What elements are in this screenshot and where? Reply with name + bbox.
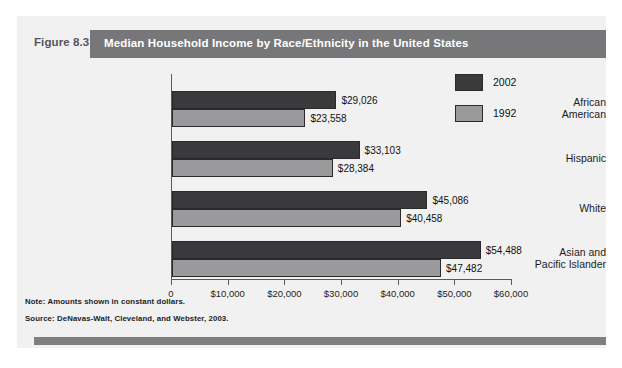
bar-2002-2	[172, 191, 427, 209]
x-axis-tick	[454, 280, 455, 285]
x-axis-tick	[228, 280, 229, 285]
bar-value-label: $29,026	[341, 95, 377, 106]
bar-value-label: $33,103	[365, 145, 401, 156]
bar-2002-1	[172, 141, 360, 159]
bar-1992-0	[172, 109, 305, 127]
category-label-line: Asian and	[460, 246, 606, 259]
bottom-rule	[34, 337, 606, 345]
category-label-line: White	[460, 202, 606, 215]
category-label-line: Pacific Islander	[460, 258, 606, 271]
source-text: Source: DeNavas-Walt, Cleveland, and Web…	[25, 314, 229, 323]
x-axis-tick-label: $60,000	[494, 288, 528, 299]
category-label: White	[460, 202, 606, 215]
figure-panel: Figure 8.3 Median Household Income by Ra…	[17, 16, 606, 348]
x-axis-tick-label: $50,000	[437, 288, 471, 299]
bar-1992-1	[172, 159, 333, 177]
x-axis-tick	[171, 280, 172, 285]
category-label: Asian andPacific Islander	[460, 246, 606, 271]
x-axis-tick	[511, 280, 512, 285]
category-label: Hispanic	[460, 152, 606, 165]
bar-2002-0	[172, 91, 336, 109]
x-axis-tick-label: $10,000	[210, 288, 244, 299]
x-axis-tick	[284, 280, 285, 285]
bar-value-label: $28,384	[338, 163, 374, 174]
legend-swatch	[455, 74, 483, 91]
x-axis-tick	[341, 280, 342, 285]
note-text: Note: Amounts shown in constant dollars.	[25, 297, 185, 306]
category-label-line: Hispanic	[460, 152, 606, 165]
x-axis-tick-label: $40,000	[380, 288, 414, 299]
x-axis-tick-label: $30,000	[324, 288, 358, 299]
legend-label: 1992	[493, 107, 516, 119]
bar-2002-3	[172, 241, 481, 259]
x-axis-tick-label: $20,000	[267, 288, 301, 299]
bar-value-label: $40,458	[406, 213, 442, 224]
bar-value-label: $23,558	[310, 113, 346, 124]
bar-1992-3	[172, 259, 441, 277]
legend-label: 2002	[493, 76, 516, 88]
legend-swatch	[455, 105, 483, 122]
bar-1992-2	[172, 209, 401, 227]
x-axis-tick	[398, 280, 399, 285]
